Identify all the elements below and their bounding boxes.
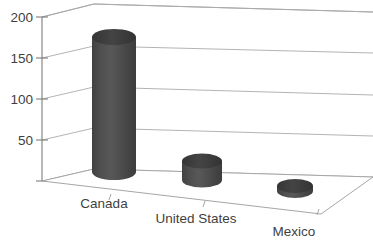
bar-canada-body [92,37,136,180]
bar-mexico[interactable] [277,179,313,198]
y-tick-label-100: 100 [10,92,33,107]
bar-mexico-top [277,179,313,193]
y-tick-label-50: 50 [18,133,33,148]
bar-canada-top [92,29,136,45]
bar-canada[interactable] [92,29,136,180]
y-tick-label-150: 150 [10,51,33,66]
cylinder-bar-chart: 200 150 100 50 [0,0,373,240]
bar-united-states-top [182,154,222,169]
y-tick-label-200: 200 [10,10,33,25]
x-label-united-states: United States [155,211,236,226]
x-label-canada: Canada [80,196,128,211]
chart-container: 200 150 100 50 [0,0,373,240]
x-label-mexico: Mexico [273,224,316,239]
bar-united-states[interactable] [182,154,222,188]
